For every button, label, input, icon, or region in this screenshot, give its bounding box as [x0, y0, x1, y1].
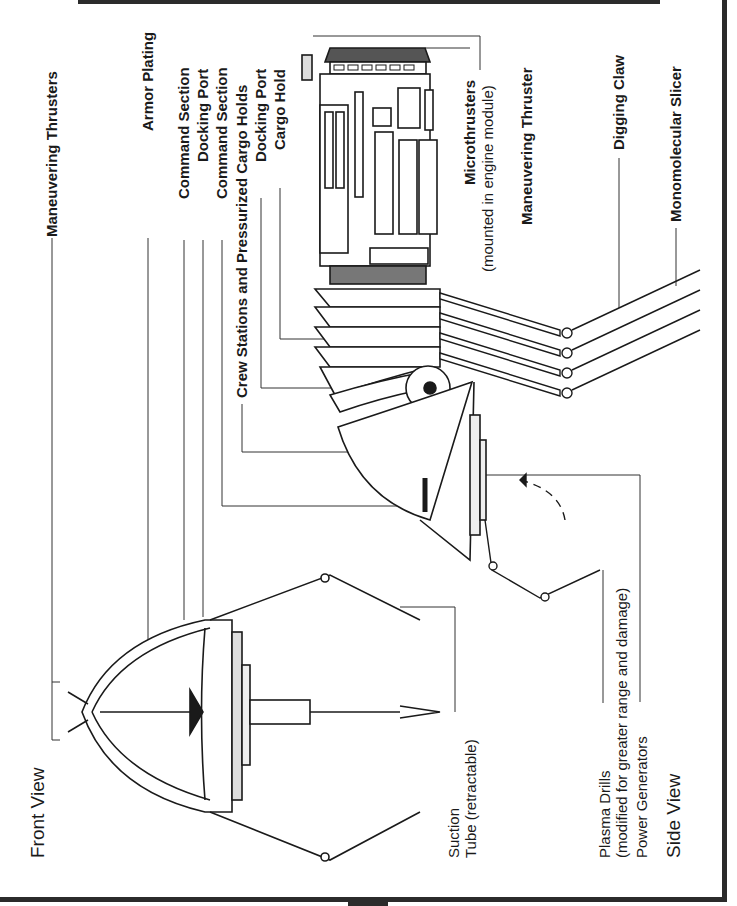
title-side-view: Side View — [664, 774, 684, 858]
label-maneuvering-thruster: Maneuvering Thruster — [519, 67, 535, 225]
label-suction-tube-2: Tube (retractable) — [463, 739, 479, 858]
schematic-diagram: Maneuvering Thrusters Armor Plating Comm… — [0, 0, 737, 906]
label-digging-claw: Digging Claw — [611, 55, 627, 150]
label-docking-port-front: Docking Port — [195, 69, 211, 162]
label-monomolecular-slicer: Monomolecular Slicer — [668, 66, 684, 222]
label-power-generators: Power Generators — [634, 736, 650, 858]
label-suction-tube-1: Suction — [446, 808, 462, 858]
label-maneuvering-thrusters: Maneuvering Thrusters — [44, 71, 60, 237]
label-docking-port-side: Docking Port — [253, 69, 269, 162]
label-armor-plating: Armor Plating — [140, 32, 156, 131]
label-command-section-side: Command Section — [214, 67, 230, 199]
label-plasma-drills: Plasma Drills — [597, 770, 613, 858]
label-crew-stations: Crew Stations and Pressurized Cargo Hold… — [234, 85, 250, 398]
label-plasma-drills-note: (modified for greater range and damage) — [614, 588, 630, 858]
segmented-body — [315, 289, 486, 560]
title-front-view: Front View — [28, 768, 48, 858]
label-microthrusters: Microthrusters — [462, 80, 478, 185]
engine-module — [302, 48, 437, 284]
label-cargo-hold: Cargo Hold — [272, 69, 288, 150]
label-microthrusters-note: (mounted in engine module) — [480, 85, 496, 272]
label-command-section-front: Command Section — [176, 67, 192, 199]
front-view-hull — [68, 574, 440, 861]
